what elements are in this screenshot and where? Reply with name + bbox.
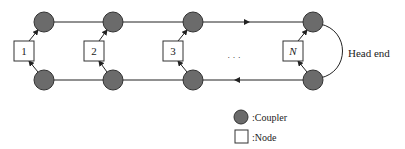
legend-coupler-icon	[234, 110, 248, 124]
legend-coupler-label: :Coupler	[252, 112, 288, 123]
node-label-3: 3	[170, 45, 176, 57]
node-label-n: N	[288, 45, 297, 57]
coupler-top-3	[183, 12, 203, 32]
coupler-bottom-1	[34, 70, 54, 90]
coupler-top-n	[303, 12, 323, 32]
ring-diagram: 1 2 3 N · · · Head end :Coupler :Node	[0, 0, 405, 149]
arrow-left-icon	[234, 77, 240, 83]
coupler-bottom-3	[183, 70, 203, 90]
node-label-2: 2	[91, 45, 97, 57]
node-label-1: 1	[21, 45, 27, 57]
coupler-bottom-n	[303, 70, 323, 90]
legend-node-icon	[235, 130, 248, 143]
head-end-loop	[320, 24, 343, 78]
coupler-bottom-2	[103, 70, 123, 90]
head-end-label: Head end	[348, 47, 390, 59]
arrow-right-icon	[244, 19, 250, 25]
coupler-top-1	[34, 12, 54, 32]
coupler-top-2	[103, 12, 123, 32]
legend-node-label: :Node	[252, 132, 277, 143]
ellipsis: · · ·	[227, 52, 241, 62]
